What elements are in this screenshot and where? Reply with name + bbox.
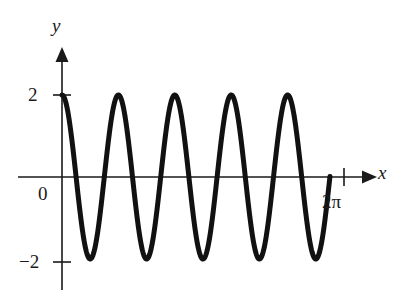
x-tick-label-2pi: 2π xyxy=(322,192,341,211)
y-tick-label-2: 2 xyxy=(28,85,38,104)
y-axis-label: y xyxy=(52,16,60,35)
figure-canvas: y x 2 −2 0 2π xyxy=(0,0,416,302)
plot-svg xyxy=(0,0,416,302)
x-axis-label: x xyxy=(378,163,386,182)
y-tick-label-negative-2: −2 xyxy=(19,252,39,271)
x-axis-arrowhead xyxy=(362,171,377,184)
y-axis-arrowhead xyxy=(56,47,69,62)
origin-label: 0 xyxy=(38,184,48,203)
x-axis xyxy=(18,168,377,186)
y-axis xyxy=(53,47,71,290)
